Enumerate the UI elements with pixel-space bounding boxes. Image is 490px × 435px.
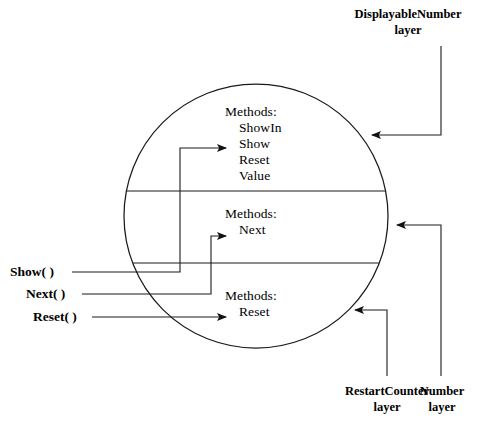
operation-label-reset: Reset( ) xyxy=(33,309,77,325)
callout-number-line2: layer xyxy=(408,399,476,415)
connector-show xyxy=(72,148,226,272)
method-value: Value xyxy=(239,168,282,184)
methods-heading-displayable-number: Methods: xyxy=(225,104,282,120)
callout-displayable-number-layer: DisplayableNumber layer xyxy=(332,6,484,39)
diagram-canvas: Methods: ShowIn Show Reset Value Methods… xyxy=(0,0,490,435)
methods-heading-number: Methods: xyxy=(225,206,277,222)
callout-displayable-number-line1: DisplayableNumber xyxy=(332,6,484,22)
connector-next xyxy=(82,236,226,294)
callout-displayable-number-line2: layer xyxy=(332,22,484,38)
method-showin: ShowIn xyxy=(239,120,282,136)
layer-block-displayable-number: Methods: ShowIn Show Reset Value xyxy=(225,104,282,184)
layer-block-restart-counter: Methods: Reset xyxy=(225,288,277,320)
method-show: Show xyxy=(239,136,282,152)
method-reset-bottom: Reset xyxy=(239,304,277,320)
connector-number-layer xyxy=(397,225,441,376)
connector-displayable-number-layer xyxy=(372,46,441,135)
callout-number-line1: Number xyxy=(408,383,476,399)
operation-label-next: Next( ) xyxy=(26,286,65,302)
operation-label-show: Show( ) xyxy=(10,264,54,280)
connector-restart-counter-layer xyxy=(355,310,387,376)
callout-number-layer: Number layer xyxy=(408,383,476,416)
method-next: Next xyxy=(239,222,277,238)
methods-heading-restart-counter: Methods: xyxy=(225,288,277,304)
layer-block-number: Methods: Next xyxy=(225,206,277,238)
method-reset-top: Reset xyxy=(239,152,282,168)
